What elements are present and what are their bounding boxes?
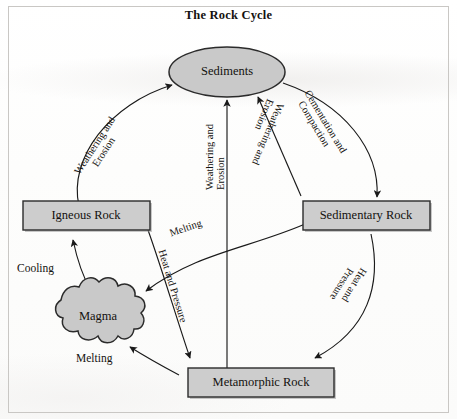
node-label-sediments: Sediments bbox=[177, 65, 277, 78]
node-label-metamorphic: Metamorphic Rock bbox=[191, 376, 331, 389]
edge-label-weathering-erosion-center: Weathering and Erosion bbox=[204, 124, 227, 190]
arrow-metamorphic-to-magma bbox=[130, 347, 179, 375]
node-label-magma: Magma bbox=[60, 310, 136, 323]
node-label-sedimentary: Sedimentary Rock bbox=[306, 209, 426, 222]
node-label-igneous: Igneous Rock bbox=[26, 209, 146, 222]
diagram-page: The Rock Cycle bbox=[0, 0, 457, 419]
edge-label-cooling: Cooling bbox=[17, 262, 54, 274]
edge-label-line-2: Erosion bbox=[215, 124, 226, 190]
edge-label-line-1: Weathering and bbox=[204, 124, 215, 190]
edge-label-melting-bottom: Melting bbox=[76, 352, 112, 364]
